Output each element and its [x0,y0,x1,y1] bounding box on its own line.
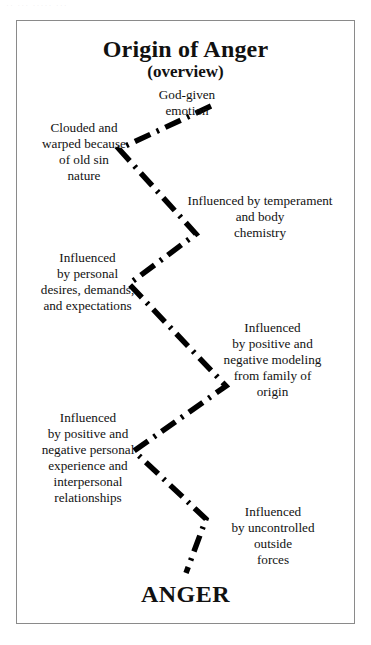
node-label-clouded: Clouded andwarped becauseof old sinnatur… [19,120,149,184]
node-label-family-modeling: Influencedby positive andnegative modeli… [195,320,350,400]
node-label-personal-experience: Influencedby positive andnegative person… [19,410,157,507]
page-subtitle: (overview) [17,63,354,82]
scan-edge-artifact: ·· ··· ····· ··· [6,0,176,9]
node-label-god-given: God-givenemotion [112,87,262,119]
diagram-frame: Origin of Anger (overview) God-givenemot… [16,20,355,624]
node-label-temperament: Influenced by temperamentand bodychemist… [170,193,350,241]
node-label-outside-forces: Influencedby uncontrolledoutsideforces [197,504,349,568]
node-label-personal-desires: Influencedby personaldesires, demands,an… [19,250,156,314]
outcome-label-anger: ANGER [17,581,354,608]
title-block: Origin of Anger (overview) [17,37,354,82]
page-title: Origin of Anger [17,37,354,62]
